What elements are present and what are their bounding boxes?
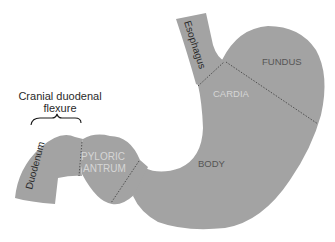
flexure-brace (31, 114, 81, 125)
body-label: BODY (198, 158, 226, 169)
stomach-diagram: Cranial duodenal flexure Esophagus FUNDU… (0, 0, 335, 242)
fundus-label: FUNDUS (262, 56, 302, 67)
cardia-label: CARDIA (213, 88, 250, 99)
flexure-label-line1: Cranial duodenal (18, 90, 101, 102)
duodenum-region (15, 135, 83, 204)
pyloric-label-line1: PYLORIC (81, 151, 125, 162)
pyloric-label-line2: ANTRUM (83, 163, 126, 174)
flexure-label-line2: flexure (43, 102, 76, 114)
